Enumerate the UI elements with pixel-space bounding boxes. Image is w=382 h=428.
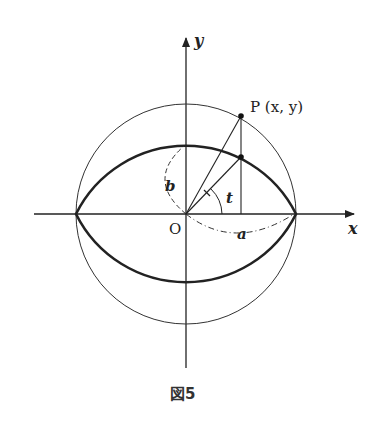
angle-t-arc: [211, 189, 222, 214]
y-axis-label: y: [193, 31, 205, 50]
semi-minor-label: b: [165, 177, 176, 195]
x-axis-label: x: [347, 219, 358, 238]
semi-major-label: a: [237, 225, 247, 243]
origin-label: O: [169, 220, 181, 238]
angle-t-label: t: [226, 189, 233, 207]
point-on-ellipse: [238, 154, 244, 160]
figure-caption: 図5: [170, 385, 195, 403]
point-P-label: P (x, y): [250, 98, 303, 116]
ellipse-parametric-diagram: y x O P (x, y) b t a 図5: [0, 0, 382, 428]
point-P: [238, 113, 244, 119]
